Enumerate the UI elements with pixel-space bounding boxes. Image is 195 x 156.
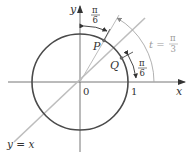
- angle-arc-top: [84, 26, 107, 31]
- point-q: [120, 56, 124, 60]
- origin-label: 0: [83, 86, 89, 97]
- one-label: 1: [131, 86, 137, 97]
- top-angle-den: 6: [93, 15, 98, 25]
- right-angle-den: 6: [140, 68, 145, 78]
- point-p-label: P: [92, 40, 101, 53]
- y-axis-label: y: [69, 3, 77, 16]
- line-y-equals-x: [14, 18, 145, 142]
- t-angle-den: 3: [171, 44, 176, 54]
- angle-arc-right: [128, 55, 136, 78]
- line-label: y = x: [6, 138, 34, 150]
- top-angle-num: π: [92, 5, 98, 15]
- t-angle-num: π: [170, 33, 176, 43]
- x-axis-label: x: [176, 85, 183, 98]
- point-p: [102, 39, 106, 43]
- unit-circle-diagram: y x 0 1 P Q y = x π 6 π 6 t = π 3: [0, 0, 195, 156]
- point-q-label: Q: [110, 59, 119, 72]
- right-angle-num: π: [139, 58, 145, 68]
- t-label-prefix: t =: [149, 39, 165, 50]
- tick-q: [122, 52, 133, 58]
